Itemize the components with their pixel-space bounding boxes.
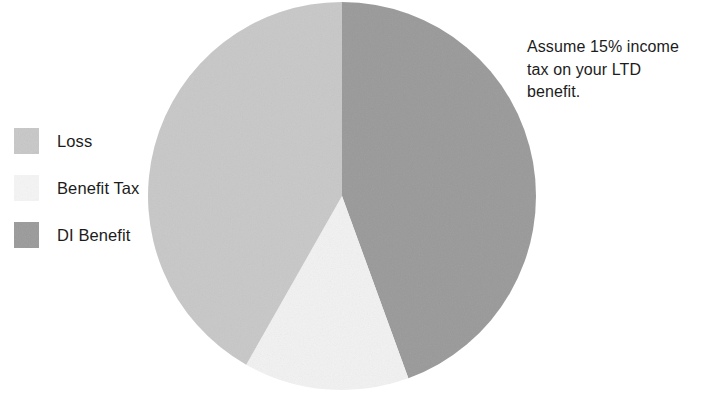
- legend-swatch-loss: [14, 128, 39, 154]
- legend-swatch-di-benefit-icon: [14, 222, 39, 248]
- legend-swatch-benefit-tax: [14, 175, 39, 201]
- legend-swatch-loss-icon: [14, 128, 39, 154]
- pie-grain-texture: [147, 2, 537, 392]
- chart-legend: Loss Benefit Tax DI Benefit: [14, 126, 154, 267]
- legend-label-benefit-tax: Benefit Tax: [57, 179, 139, 198]
- legend-swatch-benefit-tax-icon: [14, 175, 39, 201]
- legend-item-di-benefit: DI Benefit: [14, 220, 154, 250]
- pie-chart-figure: Loss Benefit Tax DI Benefit Assume 15% i…: [0, 0, 702, 395]
- legend-item-loss: Loss: [14, 126, 154, 156]
- chart-annotation-text: Assume 15% income tax on your LTD benefi…: [527, 36, 692, 104]
- legend-swatch-di-benefit: [14, 222, 39, 248]
- pie-chart-svg: [147, 2, 537, 392]
- legend-item-benefit-tax: Benefit Tax: [14, 173, 154, 203]
- legend-label-loss: Loss: [57, 132, 92, 151]
- legend-label-di-benefit: DI Benefit: [57, 226, 130, 245]
- pie-chart: [147, 2, 537, 392]
